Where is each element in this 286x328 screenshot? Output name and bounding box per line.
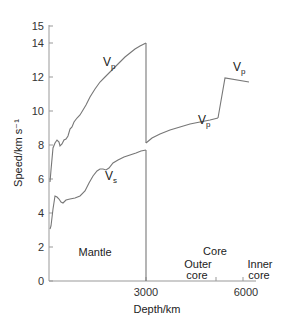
inner-core-label-2: core <box>248 269 269 281</box>
y-tick-4: 4 <box>38 207 44 219</box>
y-tick-8: 8 <box>38 139 44 151</box>
y-tick-15: 15 <box>32 20 44 32</box>
vp-label-inner-core: Vp <box>233 60 246 76</box>
vp-curve-inner-core <box>218 78 249 118</box>
vp-label-outer-core: Vp <box>198 113 211 129</box>
vs-curve <box>50 150 146 229</box>
x-tick-3000: 3000 <box>134 286 158 298</box>
mantle-label: Mantle <box>78 246 111 258</box>
vs-label: Vs <box>105 169 117 185</box>
y-axis-title: Speed/km s⁻¹ <box>12 119 24 187</box>
core-label: Core <box>203 245 227 257</box>
y-tick-6: 6 <box>38 173 44 185</box>
y-tick-2: 2 <box>38 241 44 253</box>
outer-core-label-2: core <box>186 269 207 281</box>
vp-label-mantle: Vp <box>103 55 116 71</box>
x-axis-title: Depth/km <box>133 303 180 315</box>
vp-curve-mantle <box>50 43 146 182</box>
y-tick-10: 10 <box>32 105 44 117</box>
velocity-depth-chart: 0 2 4 6 8 10 12 14 15 3000 6000 Depth/km… <box>0 0 286 328</box>
x-tick-6000: 6000 <box>234 286 258 298</box>
y-tick-0: 0 <box>38 275 44 287</box>
y-tick-12: 12 <box>32 71 44 83</box>
y-tick-14: 14 <box>32 37 44 49</box>
